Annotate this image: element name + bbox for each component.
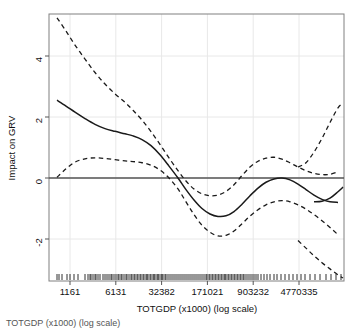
y-tick-label: 2 <box>33 118 44 123</box>
x-tick-label: 32382 <box>148 286 174 297</box>
y-tick-label: 0 <box>33 179 44 184</box>
chart-background <box>0 0 353 329</box>
x-tick-label: 171021 <box>192 286 224 297</box>
partial-dependence-plot: -2024 11616131323821710219032324770335 I… <box>0 0 353 329</box>
y-tick-label: -2 <box>33 238 44 246</box>
y-axis-label: Impact on GRV <box>6 115 17 180</box>
x-tick-label: 4770335 <box>281 286 318 297</box>
y-tick-label: 4 <box>33 57 44 62</box>
x-tick-label: 1161 <box>60 286 80 297</box>
figure-caption: TOTGDP (x1000) (log scale) <box>6 318 120 328</box>
chart-figure: -2024 11616131323821710219032324770335 I… <box>0 0 353 329</box>
x-tick-label: 903232 <box>237 286 269 297</box>
x-axis-label: TOTGDP (x1000) (log scale) <box>137 303 258 314</box>
figure-caption-strip: TOTGDP (x1000) (log scale) <box>0 315 353 329</box>
x-tick-label: 6131 <box>105 286 126 297</box>
